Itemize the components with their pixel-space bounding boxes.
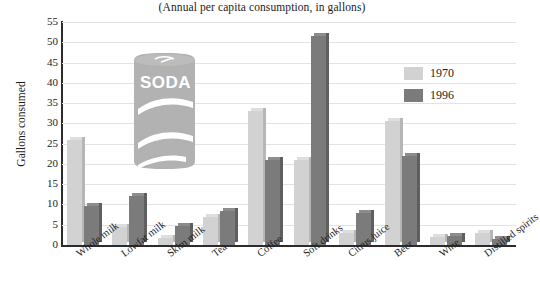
y-axis-ticks: 5550454035302520151050 <box>22 0 58 308</box>
bar-1970-skim-milk <box>158 238 173 245</box>
legend-item-1970: 1970 <box>404 62 494 84</box>
bar-1970-distilled-spirits <box>475 233 490 245</box>
legend-swatch <box>404 89 423 102</box>
chart-title: (Annual per capita consumption, in gallo… <box>0 1 524 13</box>
bar-1996-beer <box>402 156 417 245</box>
legend: 19701996 <box>404 62 494 106</box>
bar-1970-coffee <box>248 111 263 245</box>
y-axis-tick-label: 25 <box>28 138 58 149</box>
y-axis-tick-label: 10 <box>28 198 58 209</box>
y-axis-tick-label: 5 <box>28 219 58 230</box>
y-axis-tick-label: 0 <box>28 239 58 250</box>
y-axis-tick-label: 55 <box>28 16 58 27</box>
bar-1970-wine <box>430 237 445 245</box>
gridline <box>62 42 516 43</box>
y-axis-tick-label: 30 <box>28 117 58 128</box>
y-axis-tick-label: 15 <box>28 178 58 189</box>
y-axis-tick-label: 50 <box>28 36 58 47</box>
svg-text:SODA: SODA <box>140 73 191 92</box>
bar-1970-whole-milk <box>67 140 82 245</box>
bar-1970-citrus-juice <box>339 233 354 245</box>
y-axis-tick-label: 40 <box>28 77 58 88</box>
bar-1996-soft-drinks <box>311 36 326 245</box>
bar-1970-soft-drinks <box>294 160 309 245</box>
bar-1996-tea <box>220 211 235 245</box>
bar-1996-coffee <box>265 160 280 245</box>
legend-label: 1996 <box>430 88 454 103</box>
gridline <box>62 22 516 23</box>
y-axis-tick-label: 20 <box>28 158 58 169</box>
legend-item-1996: 1996 <box>404 84 494 106</box>
y-axis-tick-label: 45 <box>28 57 58 68</box>
soda-can-illustration: SODA <box>131 51 198 171</box>
legend-label: 1970 <box>430 66 454 81</box>
legend-swatch <box>404 67 423 80</box>
y-axis-tick-label: 35 <box>28 97 58 108</box>
gridline <box>62 184 516 185</box>
